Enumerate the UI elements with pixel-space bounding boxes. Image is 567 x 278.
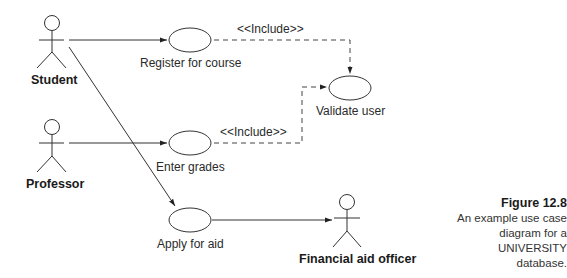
usecase-register-ellipse[interactable] bbox=[169, 28, 211, 52]
usecase-validate-label: Validate user bbox=[316, 104, 385, 118]
usecase-grades-ellipse[interactable] bbox=[169, 131, 211, 155]
include-register-validate-label: <<Include>> bbox=[237, 22, 304, 36]
actor-professor-label: Professor bbox=[26, 177, 84, 191]
usecase-register-label: Register for course bbox=[140, 56, 241, 70]
caption-line-1: An example use case bbox=[447, 211, 567, 226]
actor-financial-aid-officer-figure bbox=[333, 195, 361, 248]
actor-financial-aid-officer-label: Financial aid officer bbox=[299, 252, 416, 266]
include-grades-validate-label: <<Include>> bbox=[220, 125, 287, 139]
assoc-student-aid bbox=[69, 47, 175, 206]
usecase-aid-ellipse[interactable] bbox=[169, 208, 211, 232]
actor-student-label: Student bbox=[31, 73, 78, 87]
usecase-validate-ellipse[interactable] bbox=[329, 76, 371, 100]
actor-professor-figure bbox=[37, 120, 66, 173]
figure-number: Figure 12.8 bbox=[447, 196, 567, 211]
actor-student-figure bbox=[37, 16, 66, 69]
usecase-grades-label: Enter grades bbox=[156, 160, 225, 174]
usecase-aid-label: Apply for aid bbox=[157, 237, 224, 251]
caption-line-3: UNIVERSITY database. bbox=[447, 241, 567, 271]
caption-line-2: diagram for a bbox=[447, 226, 567, 241]
figure-caption: Figure 12.8 An example use case diagram … bbox=[447, 196, 567, 271]
